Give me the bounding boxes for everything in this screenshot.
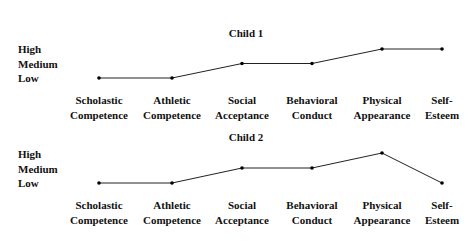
data-point	[310, 166, 314, 170]
data-point	[240, 166, 244, 170]
chart-child-2: Child 2 High Medium Low ScholasticCompet…	[0, 0, 473, 244]
category-label: Self-Esteem	[397, 198, 473, 228]
data-point	[97, 181, 101, 185]
data-point	[380, 151, 384, 155]
series-line	[99, 153, 442, 183]
data-point	[170, 181, 174, 185]
data-point	[440, 181, 444, 185]
